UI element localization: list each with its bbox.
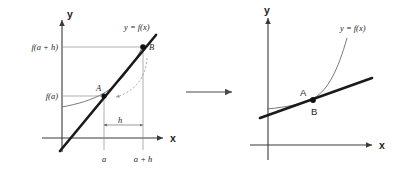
- left-point-a-dot: [101, 93, 106, 98]
- left-xtick-a: a: [102, 154, 106, 164]
- left-y-axis-label: y: [67, 8, 73, 20]
- right-curve-label: y = f(x): [339, 23, 366, 33]
- left-point-a-label: A: [95, 83, 102, 93]
- left-ytick-fa: f(a): [46, 91, 58, 101]
- left-point-b-label: B: [149, 42, 154, 52]
- left-h-label: h: [118, 115, 122, 125]
- figure-container: y x h A B f(a + h): [0, 0, 402, 174]
- right-x-axis-label: x: [379, 139, 385, 151]
- right-point-dot: [310, 97, 316, 103]
- left-x-axis-label: x: [170, 132, 176, 144]
- left-xtick-a-plus-h: a + h: [134, 154, 153, 164]
- left-ytick-fa-plus-h: f(a + h): [31, 42, 58, 52]
- left-function-curve: [62, 48, 142, 107]
- left-secant-panel: y x h A B f(a + h): [31, 8, 176, 164]
- right-point-b-label: B: [311, 106, 317, 117]
- right-y-axis-label: y: [264, 4, 270, 16]
- right-point-a-label: A: [300, 87, 307, 98]
- left-curve-label: y = f(x): [123, 22, 150, 32]
- diagram-svg: y x h A B f(a + h): [0, 0, 402, 174]
- right-tangent-panel: y x A B y = f(x): [250, 4, 385, 160]
- left-secant-line: [60, 35, 156, 151]
- left-point-b-dot: [140, 44, 146, 50]
- right-function-curve: [267, 38, 347, 109]
